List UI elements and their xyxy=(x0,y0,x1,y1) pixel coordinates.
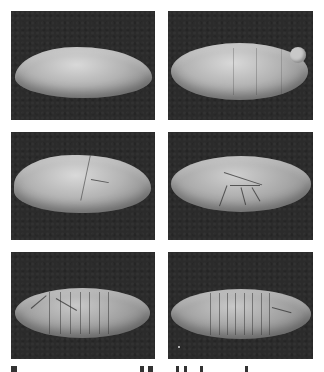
egg-specimen xyxy=(171,289,311,339)
sem-panel-2 xyxy=(168,11,313,120)
egg-specimen xyxy=(171,43,308,100)
sem-panel-5 xyxy=(11,252,155,359)
sem-panel-1 xyxy=(11,11,155,120)
egg-specimen xyxy=(171,156,311,212)
pole-cell-cap xyxy=(290,47,306,63)
egg-specimen xyxy=(15,47,152,98)
sem-panel-3 xyxy=(11,132,155,240)
egg-specimen xyxy=(15,288,150,338)
debris-particle xyxy=(178,346,180,348)
sem-panel-4 xyxy=(168,132,313,240)
figure-caption-truncated xyxy=(11,366,313,372)
egg-specimen xyxy=(14,155,151,213)
sem-panel-6 xyxy=(168,252,313,359)
